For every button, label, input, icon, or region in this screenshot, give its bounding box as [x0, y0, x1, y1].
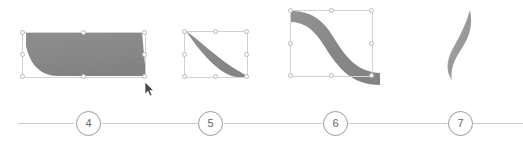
screenshot-canvas: 4 5 6 7 [0, 0, 523, 142]
resize-handle-bottom-center[interactable] [329, 73, 334, 78]
resize-handle-top-center[interactable] [329, 8, 334, 13]
resize-handle-top-left[interactable] [288, 8, 293, 13]
rail-line-right [473, 123, 523, 124]
resize-handle-middle-left[interactable] [288, 41, 293, 46]
rail-line-left [267, 123, 322, 124]
caption-rail: 4 5 6 7 [0, 105, 523, 142]
mouse-pointer-icon [144, 82, 155, 97]
shape-7-art[interactable] [400, 0, 523, 105]
step-number-4[interactable]: 4 [76, 111, 101, 136]
resize-handle-middle-right[interactable] [142, 52, 147, 57]
caption-item-5: 5 [170, 105, 280, 142]
shape-stage [0, 0, 523, 105]
selection-box-6[interactable] [290, 10, 373, 77]
resize-handle-bottom-right[interactable] [369, 73, 374, 78]
resize-handle-top-right[interactable] [142, 30, 147, 35]
shape-cell-6 [280, 0, 400, 105]
selection-box-4[interactable] [22, 32, 146, 78]
resize-handle-top-center[interactable] [213, 29, 218, 34]
caption-item-6: 6 [280, 105, 400, 142]
shape-cell-4 [0, 0, 170, 105]
resize-handle-top-left[interactable] [20, 30, 25, 35]
resize-handle-middle-right[interactable] [369, 41, 374, 46]
resize-handle-top-center[interactable] [81, 30, 86, 35]
step-number-5[interactable]: 5 [198, 111, 223, 136]
caption-item-7: 7 [400, 105, 523, 142]
rail-line-left [143, 123, 198, 124]
rail-line-left [18, 123, 74, 124]
step-number-7[interactable]: 7 [448, 111, 473, 136]
shape-cell-7 [400, 0, 523, 105]
resize-handle-middle-left[interactable] [182, 52, 187, 57]
resize-handle-bottom-left[interactable] [288, 73, 293, 78]
resize-handle-bottom-center[interactable] [81, 74, 86, 79]
resize-handle-middle-right[interactable] [244, 52, 249, 57]
rail-line-left [392, 123, 447, 124]
shape-cell-5 [170, 0, 280, 105]
resize-handle-top-right[interactable] [369, 8, 374, 13]
resize-handle-top-right[interactable] [244, 29, 249, 34]
step-number-6[interactable]: 6 [323, 111, 348, 136]
resize-handle-top-left[interactable] [182, 29, 187, 34]
resize-handle-bottom-right[interactable] [244, 74, 249, 79]
resize-handle-bottom-left[interactable] [20, 74, 25, 79]
resize-handle-bottom-right[interactable] [142, 74, 147, 79]
resize-handle-bottom-center[interactable] [213, 74, 218, 79]
resize-handle-bottom-left[interactable] [182, 74, 187, 79]
resize-handle-middle-left[interactable] [20, 52, 25, 57]
selection-box-5[interactable] [184, 31, 248, 78]
